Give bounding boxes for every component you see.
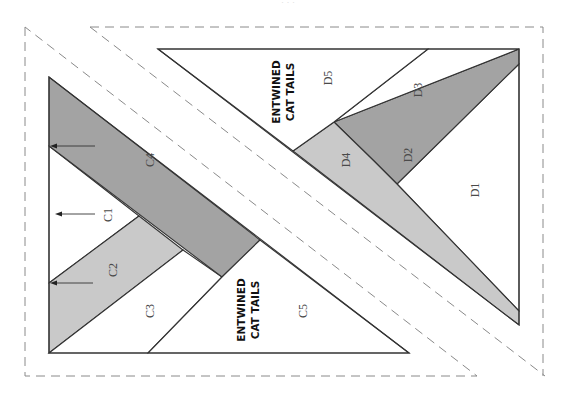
piece-label-d5: D5 xyxy=(321,71,335,86)
section-c-title-line2: CAT TAILS xyxy=(249,281,261,339)
section-d-title-line1: ENTWINED xyxy=(270,60,282,124)
piece-label-c4: C4 xyxy=(143,153,157,167)
piece-label-d3: D3 xyxy=(411,83,425,98)
piece-label-d4: D4 xyxy=(339,153,353,168)
piece-label-c5: C5 xyxy=(296,304,310,318)
faint-header-text: · · · xyxy=(281,0,295,7)
piece-label-c3: C3 xyxy=(143,304,157,318)
section-d-title-line2: CAT TAILS xyxy=(284,63,296,121)
piece-label-c1: C1 xyxy=(101,208,115,222)
piece-label-d2: D2 xyxy=(401,148,415,163)
section-c-title-line1: ENTWINED xyxy=(235,278,247,342)
piece-label-c2: C2 xyxy=(106,263,120,277)
piece-label-d1: D1 xyxy=(468,183,482,198)
quilt-pattern-diagram: · · · C1C2C3C4C5 ENTWINED CAT TAILS D1D2… xyxy=(0,0,570,402)
